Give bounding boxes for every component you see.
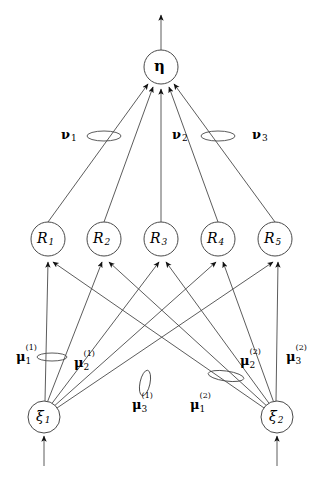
node-label-R2: R2 xyxy=(93,231,110,247)
mu2-2-label: μ(2)2 xyxy=(240,354,250,367)
nu2-ellipse xyxy=(201,131,235,141)
figure-canvas: η R1 R2 R3 R4 R5 ξ1 ξ2 ν1 ν2 ν3 μ(1)1 μ(… xyxy=(0,0,322,481)
edge-xi1-to-R4 xyxy=(52,262,216,408)
mu1-1-symbol: μ xyxy=(16,349,26,364)
mu2-2-symbol: μ xyxy=(240,353,250,368)
mu1-2-symbol: μ xyxy=(190,397,200,412)
mu1-2-label: μ(2)1 xyxy=(190,398,200,411)
node-label-xi1-symbol: ξ xyxy=(36,408,44,424)
nu3-label: ν3 xyxy=(252,128,268,143)
node-label-R4-symbol: R xyxy=(207,230,218,246)
mu3-1-symbol: μ xyxy=(132,397,142,412)
nu1-index: 1 xyxy=(70,133,77,143)
mu2-2-sup: (2) xyxy=(250,348,261,356)
edge-R1-to-eta xyxy=(48,84,148,222)
node-label-R1-symbol: R xyxy=(37,230,48,246)
mu1-1-sup: (1) xyxy=(26,344,37,352)
nu2-symbol: ν xyxy=(172,127,181,142)
edge-xi1-to-R5 xyxy=(54,262,273,410)
mu3-2-sup: (2) xyxy=(296,344,307,352)
mu3-2-label: μ(2)3 xyxy=(286,350,296,363)
mu3-2-symbol: μ xyxy=(286,349,296,364)
node-label-R3-index: 3 xyxy=(161,237,168,247)
mu2-2-sub: 2 xyxy=(250,361,256,370)
edge-R2-to-eta xyxy=(104,87,153,222)
mu3-2-sub: 3 xyxy=(296,357,302,366)
node-label-R2-index: 2 xyxy=(104,237,111,247)
mu2-1-sub: 2 xyxy=(84,363,90,372)
node-label-xi2: ξ2 xyxy=(269,409,283,425)
mu3-1-sub: 3 xyxy=(142,405,148,414)
node-label-R4: R4 xyxy=(207,231,224,247)
node-label-xi1-index: 1 xyxy=(44,415,51,425)
node-label-xi2-symbol: ξ xyxy=(269,408,277,424)
mu2-1-label: μ(1)2 xyxy=(74,356,84,369)
edge-xi2-to-R1 xyxy=(53,262,267,410)
node-label-R5-symbol: R xyxy=(264,230,275,246)
node-label-R3: R3 xyxy=(150,231,167,247)
mu2-1-symbol: μ xyxy=(74,355,84,370)
nu2-label: ν2 xyxy=(172,128,188,143)
edge-xi2-to-R5 xyxy=(276,262,278,401)
node-label-eta: η xyxy=(154,59,165,74)
mu1-1-ellipse xyxy=(37,353,67,361)
node-label-R5: R5 xyxy=(264,231,281,247)
nu3-index: 3 xyxy=(261,133,268,143)
mu1-2-sub: 1 xyxy=(200,405,206,414)
edge-R4-to-eta xyxy=(169,87,218,222)
edge-xi2-to-R2 xyxy=(109,262,269,408)
nu1-ellipse xyxy=(87,131,121,141)
node-label-R3-symbol: R xyxy=(150,230,161,246)
mu1-1-label: μ(1)1 xyxy=(16,350,26,363)
node-label-xi1: ξ1 xyxy=(36,409,50,425)
edge-xi1-to-R1 xyxy=(45,262,48,401)
edge-xi1-to-R2 xyxy=(47,262,102,403)
node-label-R5-index: 5 xyxy=(275,237,282,247)
nu1-symbol: ν xyxy=(61,127,70,142)
node-label-xi2-index: 2 xyxy=(277,415,284,425)
edge-xi2-to-R3 xyxy=(166,262,271,406)
mu2-1-sup: (1) xyxy=(84,350,95,358)
mu3-1-sup: (1) xyxy=(142,392,153,400)
edge-R5-to-eta xyxy=(174,84,275,222)
nu2-index: 2 xyxy=(181,133,188,143)
mu2-2-ellipse xyxy=(207,369,244,384)
node-label-R2-symbol: R xyxy=(93,230,104,246)
node-label-R1: R1 xyxy=(37,231,54,247)
mu1-2-sup: (2) xyxy=(200,392,211,400)
mu1-1-sub: 1 xyxy=(26,357,32,366)
edge-xi1-to-R3 xyxy=(50,262,159,406)
node-label-R1-index: 1 xyxy=(48,237,55,247)
mu3-1-label: μ(1)3 xyxy=(132,398,142,411)
nu1-label: ν1 xyxy=(61,128,77,143)
nu3-symbol: ν xyxy=(252,127,261,142)
node-label-R4-index: 4 xyxy=(218,237,225,247)
